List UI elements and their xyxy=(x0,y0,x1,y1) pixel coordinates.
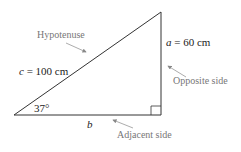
hypotenuse-arrow xyxy=(66,43,86,52)
adjacent-var: b xyxy=(87,119,93,130)
opposite-value: = 60 cm xyxy=(174,36,210,48)
opposite-var: a xyxy=(166,36,172,48)
hypotenuse-label: c = 100 cm xyxy=(19,66,68,77)
opposite-label: a = 60 cm xyxy=(166,37,210,48)
adjacent-side-arrow xyxy=(113,120,133,128)
hypotenuse-var: c xyxy=(19,65,24,77)
adjacent-caption: Adjacent side xyxy=(117,130,172,140)
opposite-caption: Opposite side xyxy=(173,76,228,86)
right-triangle-diagram: Hypotenuse c = 100 cm a = 60 cm Opposite… xyxy=(0,0,241,152)
hypotenuse-caption: Hypotenuse xyxy=(37,30,85,40)
hypotenuse-value: = 100 cm xyxy=(27,65,69,77)
angle-label: 37° xyxy=(34,103,49,114)
right-angle-marker xyxy=(151,106,161,115)
triangle-shape xyxy=(14,12,161,115)
